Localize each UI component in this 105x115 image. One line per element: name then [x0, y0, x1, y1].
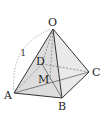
- label-O: O: [48, 16, 57, 29]
- label-B: B: [58, 100, 66, 113]
- label-A: A: [3, 89, 13, 102]
- label-D: D: [36, 55, 45, 68]
- label-edge-length: 1: [20, 47, 26, 58]
- label-C: C: [92, 66, 100, 79]
- label-M: M: [38, 73, 49, 86]
- pyramid-diagram: O A B C D M 1: [0, 0, 105, 115]
